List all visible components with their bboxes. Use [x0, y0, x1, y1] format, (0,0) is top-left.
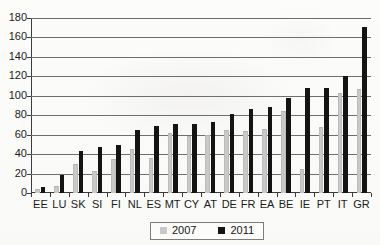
- bar-2007: [243, 131, 248, 193]
- bar-2007: [54, 186, 59, 193]
- y-axis-tick-label: 100: [0, 90, 27, 101]
- bar-group: [107, 18, 126, 193]
- y-axis-tick-label: 160: [0, 31, 27, 42]
- legend-swatch-icon: [218, 227, 225, 234]
- y-axis-tick-label: 180: [0, 12, 27, 23]
- bar-2011: [324, 88, 329, 193]
- bar-2011: [211, 122, 216, 193]
- legend-entry: 2007: [160, 225, 196, 236]
- bar-2011: [230, 114, 235, 193]
- bar-2007: [338, 93, 343, 193]
- plot-area: [31, 18, 371, 193]
- x-axis-tick: [295, 193, 296, 197]
- bar-group: [333, 18, 352, 193]
- bar-group: [239, 18, 258, 193]
- bar-group: [88, 18, 107, 193]
- bar-2011: [305, 88, 310, 193]
- bar-2011: [173, 124, 178, 193]
- bar-2007: [205, 135, 210, 193]
- bar-group: [182, 18, 201, 193]
- x-axis-tick: [88, 193, 89, 197]
- bar-2011: [249, 109, 254, 193]
- bar-group: [125, 18, 144, 193]
- bar-2007: [300, 169, 305, 193]
- bar-group: [277, 18, 296, 193]
- x-axis-tick: [107, 193, 108, 197]
- bar-2007: [187, 136, 192, 193]
- x-axis-tick: [69, 193, 70, 197]
- x-axis-tick: [163, 193, 164, 197]
- x-axis-tick: [277, 193, 278, 197]
- bar-2011: [343, 76, 348, 193]
- bar-2007: [130, 149, 135, 193]
- x-axis-tick: [125, 193, 126, 197]
- y-axis-tick-label: 140: [0, 51, 27, 62]
- bar-2011: [362, 27, 367, 193]
- bar-2007: [357, 89, 362, 193]
- bar-group: [220, 18, 239, 193]
- bar-2011: [116, 145, 121, 193]
- bar-group: [69, 18, 88, 193]
- bar-2011: [268, 107, 273, 193]
- bar-2007: [149, 158, 154, 193]
- x-axis-tick: [239, 193, 240, 197]
- y-axis-tick-label: 40: [0, 148, 27, 159]
- x-axis-tick: [201, 193, 202, 197]
- x-axis-tick: [258, 193, 259, 197]
- y-axis-tick-label: 20: [0, 168, 27, 179]
- y-axis-tick-label: 80: [0, 109, 27, 120]
- bar-2007: [168, 133, 173, 193]
- bar-2011: [60, 175, 65, 193]
- bar-2011: [98, 147, 103, 193]
- x-axis-labels: EELUSKSIFINLESMTCYATDEFREABEIEPTITGR: [31, 198, 371, 214]
- bar-2011: [286, 98, 291, 193]
- bar-2007: [224, 130, 229, 193]
- legend-label: 2007: [172, 225, 196, 236]
- x-axis-tick-label: GR: [348, 198, 375, 211]
- bar-series-container: [31, 18, 371, 193]
- bar-group: [144, 18, 163, 193]
- y-axis-tick-label: 120: [0, 70, 27, 81]
- x-axis-tick: [371, 193, 372, 197]
- bar-2007: [73, 164, 78, 193]
- x-axis-tick: [182, 193, 183, 197]
- bar-2007: [111, 159, 116, 193]
- bar-2007: [92, 171, 97, 193]
- y-axis-tick-label: 60: [0, 129, 27, 140]
- bar-group: [295, 18, 314, 193]
- bar-group: [258, 18, 277, 193]
- bar-group: [163, 18, 182, 193]
- legend-label: 2011: [230, 225, 254, 236]
- bar-2007: [262, 129, 267, 193]
- legend-swatch-icon: [160, 227, 167, 234]
- bar-2011: [154, 126, 159, 193]
- bar-2011: [192, 124, 197, 193]
- chart-screenshot: 020406080100120140160180 EELUSKSIFINLESM…: [0, 0, 380, 245]
- x-axis-tick: [333, 193, 334, 197]
- bar-group: [201, 18, 220, 193]
- legend-entry: 2011: [218, 225, 254, 236]
- x-axis-tick: [352, 193, 353, 197]
- bar-group: [314, 18, 333, 193]
- x-axis-tick: [220, 193, 221, 197]
- x-axis-tick: [314, 193, 315, 197]
- x-axis-tick: [50, 193, 51, 197]
- bar-2011: [135, 130, 140, 193]
- bar-2007: [319, 127, 324, 193]
- bar-group: [31, 18, 50, 193]
- x-axis-tick: [144, 193, 145, 197]
- x-axis-tick: [31, 193, 32, 197]
- bar-group: [352, 18, 371, 193]
- bar-2011: [79, 151, 84, 193]
- bar-2007: [281, 111, 286, 193]
- y-axis-tick-label: 0: [0, 187, 27, 198]
- bar-group: [50, 18, 69, 193]
- chart-legend: 20072011: [150, 222, 264, 240]
